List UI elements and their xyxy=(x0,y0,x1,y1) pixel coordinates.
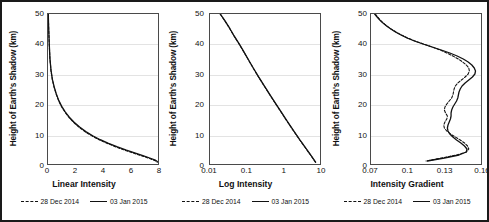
plot-area xyxy=(370,13,482,165)
x-axis-title: Linear Intensity xyxy=(4,179,164,189)
y-tick-label: 50 xyxy=(345,9,367,18)
legend-label: 03 Jan 2015 xyxy=(110,198,147,205)
series-line xyxy=(48,14,157,162)
y-axis-ticks: 01020304050 xyxy=(18,2,44,174)
y-tick-label: 30 xyxy=(345,69,367,78)
legend-line-swatch xyxy=(182,201,199,203)
legend-label: 28 Dec 2014 xyxy=(364,198,403,205)
x-axis-ticks: 0.070.10.130.16 xyxy=(370,166,482,178)
x-tick-label: 1 xyxy=(281,166,285,175)
x-tick-label: 0.16 xyxy=(474,166,489,175)
legend: 28 Dec 201403 Jan 2015 xyxy=(327,198,487,205)
y-tick-label: 10 xyxy=(182,130,204,139)
legend-item: 28 Dec 2014 xyxy=(182,198,241,205)
legend-item: 28 Dec 2014 xyxy=(21,198,80,205)
y-axis-ticks: 01020304050 xyxy=(178,2,204,174)
legend-label: 28 Dec 2014 xyxy=(202,198,241,205)
y-tick-label: 50 xyxy=(182,9,204,18)
x-axis-title: Log Intensity xyxy=(164,179,327,189)
y-tick-label: 10 xyxy=(22,130,44,139)
x-tick-label: 10 xyxy=(317,166,326,175)
legend-label: 03 Jan 2015 xyxy=(433,198,470,205)
y-tick-label: 40 xyxy=(345,39,367,48)
series-line xyxy=(375,14,476,161)
plot-area xyxy=(47,13,159,165)
x-axis-ticks: 02468 xyxy=(47,166,159,178)
y-tick-label: 20 xyxy=(22,100,44,109)
series-line xyxy=(48,14,157,162)
legend: 28 Dec 201403 Jan 2015 xyxy=(164,198,327,205)
y-tick-label: 30 xyxy=(22,69,44,78)
legend-item: 03 Jan 2015 xyxy=(252,198,309,205)
x-axis-title: Intensity Gradient xyxy=(327,179,487,189)
legend: 28 Dec 201403 Jan 2015 xyxy=(4,198,164,205)
legend-line-swatch xyxy=(344,201,361,203)
y-tick-label: 30 xyxy=(182,69,204,78)
legend-line-swatch xyxy=(90,201,107,203)
legend-line-swatch xyxy=(21,201,38,203)
y-tick-label: 20 xyxy=(345,100,367,109)
chart-panel-log-intensity: Height of Earth's Shadow (km) 0102030405… xyxy=(164,2,327,222)
chart-panel-intensity-gradient: Height of Earth's Shadow (km) 0102030405… xyxy=(327,2,487,222)
legend-item: 03 Jan 2015 xyxy=(413,198,470,205)
y-tick-label: 40 xyxy=(182,39,204,48)
x-tick-label: 4 xyxy=(101,166,105,175)
x-tick-label: 0.1 xyxy=(241,166,252,175)
series-curves xyxy=(210,14,320,164)
x-tick-label: 0.01 xyxy=(201,166,217,175)
y-tick-label: 10 xyxy=(345,130,367,139)
legend-item: 03 Jan 2015 xyxy=(90,198,147,205)
y-tick-label: 50 xyxy=(22,9,44,18)
series-line xyxy=(220,14,315,162)
x-tick-label: 6 xyxy=(129,166,133,175)
y-tick-label: 0 xyxy=(22,161,44,170)
series-curves xyxy=(371,14,481,164)
legend-label: 28 Dec 2014 xyxy=(41,198,80,205)
series-curves xyxy=(48,14,158,164)
legend-label: 03 Jan 2015 xyxy=(272,198,309,205)
x-tick-label: 0 xyxy=(45,166,49,175)
x-tick-label: 2 xyxy=(73,166,77,175)
x-axis-ticks: 0.010.1110 xyxy=(209,166,321,178)
legend-line-swatch xyxy=(252,201,269,203)
plot-area xyxy=(209,13,321,165)
x-tick-label: 0.13 xyxy=(437,166,453,175)
x-tick-label: 0.07 xyxy=(362,166,378,175)
figure-container: Height of Earth's Shadow (km) 0102030405… xyxy=(0,0,489,222)
x-tick-label: 8 xyxy=(157,166,161,175)
legend-line-swatch xyxy=(413,201,430,203)
y-tick-label: 20 xyxy=(182,100,204,109)
y-axis-ticks: 01020304050 xyxy=(341,2,367,174)
chart-panel-linear-intensity: Height of Earth's Shadow (km) 0102030405… xyxy=(4,2,164,222)
y-tick-label: 40 xyxy=(22,39,44,48)
legend-item: 28 Dec 2014 xyxy=(344,198,403,205)
x-tick-label: 0.1 xyxy=(402,166,413,175)
